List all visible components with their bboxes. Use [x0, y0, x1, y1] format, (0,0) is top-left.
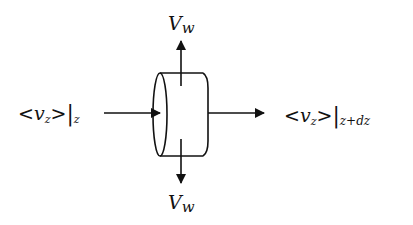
inlet-label: <vz>|z — [18, 101, 80, 127]
cylinder-right-edge — [203, 73, 208, 156]
cylinder-flow-diagram: Vw Vw <vz>|z <vz>|z+dz — [0, 0, 413, 225]
outlet-label: <vz>|z+dz — [284, 103, 371, 129]
cylinder-left-face — [153, 73, 167, 156]
bottom-velocity-label: Vw — [168, 191, 195, 216]
top-velocity-label: Vw — [168, 12, 195, 37]
